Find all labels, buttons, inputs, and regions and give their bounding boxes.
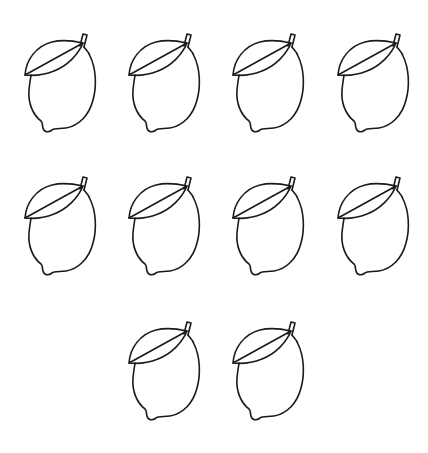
lemon-body <box>237 190 304 275</box>
lemon-body <box>29 190 96 275</box>
lemon-icon <box>126 30 202 134</box>
lemon-icon <box>126 318 202 422</box>
lemon-body <box>237 47 304 132</box>
lemon-icon <box>22 173 98 277</box>
lemon-body <box>237 335 304 420</box>
lemon-icon <box>230 30 306 134</box>
stem <box>393 177 400 190</box>
stem <box>184 177 191 190</box>
lemon-icon <box>335 173 411 277</box>
lemon-icon <box>22 30 98 134</box>
stem <box>288 34 295 47</box>
stem <box>288 322 295 335</box>
stem <box>393 34 400 47</box>
stem <box>184 34 191 47</box>
stem <box>288 177 295 190</box>
lemon-body <box>29 47 96 132</box>
lemon-body <box>133 335 200 420</box>
lemon-icon <box>230 318 306 422</box>
lemon-body <box>342 190 409 275</box>
lemon-body <box>133 190 200 275</box>
lemon-body <box>133 47 200 132</box>
stem <box>80 34 87 47</box>
lemon-body <box>342 47 409 132</box>
lemon-icon <box>335 30 411 134</box>
lemon-icon <box>230 173 306 277</box>
stem <box>184 322 191 335</box>
lemon-icon <box>126 173 202 277</box>
stem <box>80 177 87 190</box>
